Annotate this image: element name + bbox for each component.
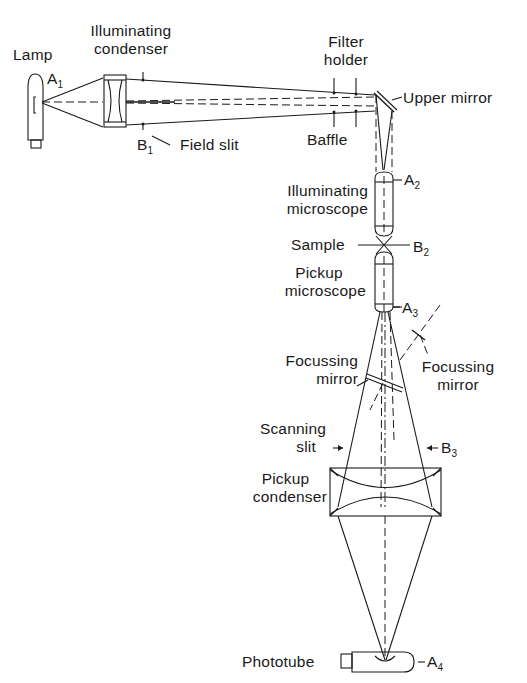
point-letter: A	[402, 299, 413, 316]
focussing-mirror-right-label: Focussing mirror	[410, 358, 506, 394]
label-line: mirror	[410, 376, 506, 394]
filter-holder-label: Filter holder	[320, 33, 372, 69]
phototube-beam-cone	[338, 516, 432, 660]
sample-line	[358, 236, 410, 254]
upper-mirror-icon	[374, 91, 402, 112]
label-line: holder	[320, 51, 372, 69]
scanning-slit-point-label: B3	[441, 439, 457, 459]
optical-diagram: Lamp A1 Illuminating condenser B1 Field …	[0, 0, 527, 683]
point-letter: B	[137, 136, 148, 153]
label-line: Focussing	[266, 352, 358, 370]
label-line: condenser	[76, 40, 186, 58]
label-line: Pickup	[244, 470, 327, 488]
pickup-microscope-point-label: A3	[402, 299, 418, 319]
point-subscript: 2	[415, 180, 421, 191]
lamp-icon	[28, 74, 43, 148]
point-letter: A	[47, 70, 58, 87]
phototube-label: Phototube	[242, 653, 314, 671]
lamp-point-label: A1	[47, 70, 63, 90]
label-line: mirror	[266, 370, 358, 388]
label-line: Scanning	[254, 420, 332, 438]
sample-label: Sample	[291, 236, 345, 254]
label-line: Focussing	[410, 358, 506, 376]
label-line: condenser	[244, 488, 327, 506]
pickup-microscope-tube	[375, 252, 402, 312]
point-subscript: 3	[452, 448, 458, 459]
label-line: Pickup	[258, 264, 366, 282]
field-slit-marks	[142, 72, 171, 145]
focussing-mirror-left-label: Focussing mirror	[266, 352, 358, 388]
horizontal-beam	[126, 79, 375, 125]
phototube-point-label: A4	[427, 653, 443, 673]
illuminating-microscope-point-label: A2	[404, 171, 420, 191]
point-subscript: 4	[438, 662, 444, 673]
illuminating-condenser-lens	[104, 75, 126, 127]
label-line: Filter	[320, 33, 372, 51]
field-slit-label: Field slit	[180, 136, 239, 154]
illuminating-microscope-tube	[375, 172, 402, 236]
lamp-label: Lamp	[13, 46, 53, 64]
point-letter: A	[427, 653, 438, 670]
sample-point-label: B2	[413, 238, 429, 258]
point-subscript: 1	[58, 79, 64, 90]
point-subscript: 2	[424, 247, 430, 258]
pickup-beam-cone	[338, 312, 432, 507]
label-line: slit	[254, 438, 332, 456]
illuminating-condenser-label: Illuminating condenser	[76, 22, 186, 58]
pickup-microscope-label: Pickup microscope	[258, 264, 366, 300]
label-line: microscope	[258, 282, 366, 300]
pickup-condenser-label: Pickup condenser	[244, 470, 327, 506]
field-slit-point-label: B1	[137, 136, 153, 156]
point-letter: A	[404, 171, 415, 188]
point-letter: B	[413, 238, 424, 255]
upper-mirror-label: Upper mirror	[403, 89, 492, 107]
label-line: microscope	[258, 200, 368, 218]
vertical-beam-upper	[376, 95, 392, 172]
point-letter: B	[441, 439, 452, 456]
label-line: Illuminating	[76, 22, 186, 40]
baffle-label: Baffle	[307, 131, 348, 149]
label-line: Illuminating	[258, 182, 368, 200]
point-subscript: 3	[413, 308, 419, 319]
filter-holder-marks	[333, 78, 358, 127]
illuminating-microscope-label: Illuminating microscope	[258, 182, 368, 218]
scanning-slit-label: Scanning slit	[254, 420, 332, 456]
point-subscript: 1	[148, 145, 154, 156]
focussing-mirror-left-icon	[357, 374, 403, 410]
